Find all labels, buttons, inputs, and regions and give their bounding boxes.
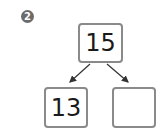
right-arrow-icon <box>107 64 128 82</box>
answer-box[interactable] <box>112 87 156 128</box>
top-number-box: 15 <box>78 23 123 63</box>
left-arrow-icon <box>70 64 90 82</box>
bottom-left-number: 13 <box>51 94 82 122</box>
top-number: 15 <box>85 29 116 57</box>
bottom-left-number-box: 13 <box>44 87 88 128</box>
